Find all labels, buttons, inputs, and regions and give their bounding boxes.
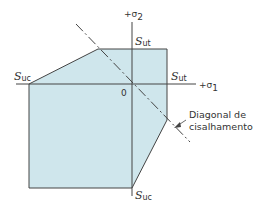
suc-bottom-label: Suc xyxy=(135,189,152,202)
sigma2-axis-label: +σ2 xyxy=(124,9,143,22)
suc-left-label: Suc xyxy=(14,70,31,83)
sut-right-label: Sut xyxy=(171,70,187,83)
safe-region xyxy=(29,49,167,188)
annotation-arrowhead-icon xyxy=(174,122,181,128)
sigma1-axis-label: +σ1 xyxy=(199,80,218,93)
annotation-line1: Diagonal de xyxy=(189,109,246,120)
annotation-line2: cisalhamento xyxy=(189,121,253,132)
origin-label: 0 xyxy=(121,88,127,98)
sut-top-label: Sut xyxy=(135,35,151,48)
failure-envelope-diagram: +σ2 +σ1 0 Sut Sut Suc Suc Diagonal de ci… xyxy=(0,0,253,210)
